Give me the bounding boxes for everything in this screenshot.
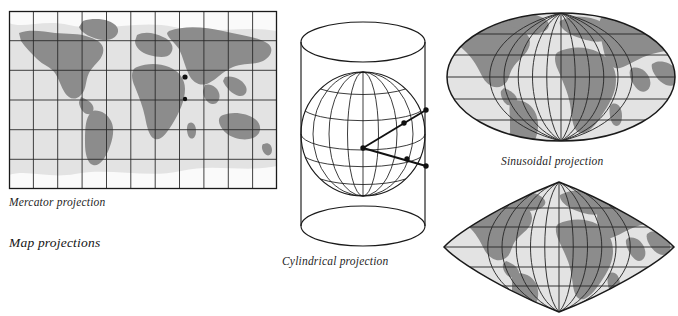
mercator-projection-figure: [9, 11, 277, 189]
diagram-canvas: Mercator projection Map projections: [0, 0, 678, 316]
page-title: Map projections: [9, 235, 100, 251]
ray-upper-cylinder-node: [423, 107, 428, 112]
globe-meridians: [313, 72, 413, 196]
globe-centre-node: [360, 145, 365, 150]
mercator-marker-lower: [183, 97, 187, 101]
ray-lower-globe-node: [404, 156, 409, 161]
pointed-pole-projection-figure: [440, 178, 678, 316]
ray-lower-cylinder-node: [423, 163, 428, 168]
mercator-map-svg: [9, 11, 277, 189]
cylinder-bottom-front-arc: [301, 226, 425, 246]
pointed-pole-map-body: [440, 178, 678, 316]
inner-globe: [301, 72, 425, 196]
sinusoidal-map-body: [444, 6, 678, 155]
ray-upper-globe-node: [401, 120, 406, 125]
mercator-marker-upper: [182, 74, 187, 79]
cylinder-top-ellipse: [301, 22, 425, 62]
sinusoidal-projection-figure: [444, 6, 678, 154]
cylindrical-caption: Cylindrical projection: [282, 255, 389, 267]
projection-ray-lower: [363, 148, 426, 166]
cylindrical-projection-figure: [283, 14, 443, 252]
sinusoidal-caption: Sinusoidal projection: [501, 155, 603, 167]
pointed-pole-map-svg: [440, 178, 678, 316]
sinusoidal-map-svg: [444, 6, 678, 154]
cylinder-bottom-back-arc: [301, 206, 425, 226]
mercator-caption: Mercator projection: [9, 196, 106, 208]
mercator-map-body: [9, 11, 277, 189]
cylinder-diagram-svg: [283, 14, 443, 252]
